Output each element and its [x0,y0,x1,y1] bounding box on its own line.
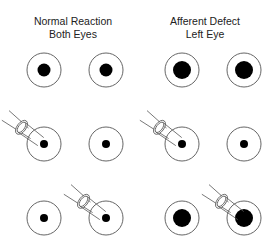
normal-light-left-eye-left-pupil [102,214,110,222]
afferent-light-right-eye-right-pupil [178,140,186,148]
normal-light-right-eye-right-pupil [40,140,48,148]
normal-light-right-eye-left-pupil [102,140,110,148]
afferent-baseline-right-pupil [173,61,191,79]
afferent-light-right-eye-left-pupil [240,140,248,148]
normal-baseline-right-pupil [38,64,51,77]
normal-baseline-left-pupil [100,64,113,77]
afferent-baseline-left-pupil [235,61,253,79]
normal-light-left-eye-right-pupil [40,214,48,222]
afferent-light-left-eye-left-pupil [235,209,253,227]
afferent-light-left-eye-right-pupil [173,209,191,227]
pupil-reaction-diagram [0,0,266,241]
